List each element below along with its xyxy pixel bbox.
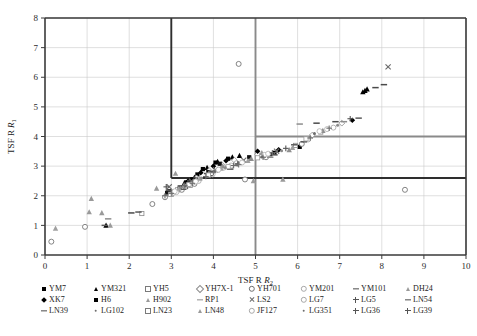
legend-item-label: XK7 bbox=[49, 295, 65, 304]
legend-item[interactable]: LG351 bbox=[298, 306, 350, 316]
legend-item[interactable]: DH24 bbox=[402, 284, 454, 294]
y-axis-title: TSF R R1 bbox=[6, 119, 17, 154]
legend-item-label: DH24 bbox=[413, 284, 433, 293]
data-point bbox=[179, 186, 182, 189]
legend-item[interactable]: LG39 bbox=[402, 306, 454, 316]
data-point bbox=[304, 137, 308, 141]
legend-row: YM7YM321YH5YH7X-1YH701YM201YM101DH24 bbox=[38, 283, 468, 294]
legend-marker-square-open-icon bbox=[142, 284, 153, 294]
data-point bbox=[49, 239, 54, 244]
y-axis-title-text: TSF R R1 bbox=[6, 119, 17, 154]
data-point bbox=[168, 192, 172, 196]
y-axis-ticks: 012345678 bbox=[34, 13, 46, 260]
legend-item[interactable]: LG102 bbox=[90, 306, 142, 316]
legend-marker-triangle-gray-icon bbox=[194, 306, 205, 316]
legend-item[interactable]: YH7X-1 bbox=[194, 284, 246, 294]
legend-item[interactable]: LG7 bbox=[298, 295, 350, 305]
legend-marker-square-open-icon bbox=[142, 306, 153, 316]
legend-item[interactable]: YH5 bbox=[142, 284, 194, 294]
legend-item[interactable]: JF127 bbox=[246, 306, 298, 316]
legend-item-label: YH5 bbox=[153, 284, 169, 293]
x-tick-label: 6 bbox=[295, 261, 300, 271]
chart-legend: YM7YM321YH5YH7X-1YH701YM201YM101DH24XK7H… bbox=[38, 283, 468, 331]
legend-item[interactable]: YM101 bbox=[350, 284, 402, 294]
y-tick-label: 6 bbox=[34, 72, 39, 82]
y-tick-label: 0 bbox=[34, 250, 39, 260]
legend-item-label: H902 bbox=[153, 295, 171, 304]
x-tick-label: 3 bbox=[169, 261, 174, 271]
legend-marker-x-mark-icon bbox=[246, 295, 257, 305]
legend-marker-diamond-filled-icon bbox=[38, 295, 49, 305]
legend-item-label: LN23 bbox=[153, 306, 172, 315]
legend-item-label: LG7 bbox=[309, 295, 324, 304]
x-tick-label: 0 bbox=[43, 261, 48, 271]
legend-item[interactable]: LS2 bbox=[246, 295, 298, 305]
legend-item[interactable]: LN23 bbox=[142, 306, 194, 316]
data-point bbox=[280, 149, 283, 152]
legend-item[interactable]: H6 bbox=[90, 295, 142, 305]
legend-marker-plus-icon bbox=[402, 306, 413, 316]
legend-marker-triangle-gray-icon bbox=[142, 295, 153, 305]
legend-item[interactable]: YM201 bbox=[298, 284, 350, 294]
x-tick-label: 10 bbox=[462, 261, 472, 271]
legend-marker-circle-light-icon bbox=[298, 284, 309, 294]
x-tick-label: 2 bbox=[127, 261, 132, 271]
data-point bbox=[218, 162, 222, 166]
legend-item-label: LG36 bbox=[361, 306, 380, 315]
legend-item[interactable]: LN48 bbox=[194, 306, 246, 316]
legend-item[interactable]: RP1 bbox=[194, 295, 246, 305]
data-point bbox=[226, 165, 230, 169]
legend-item-label: LN48 bbox=[205, 306, 224, 315]
y-tick-label: 5 bbox=[34, 102, 39, 112]
legend-item-label: JF127 bbox=[257, 306, 277, 315]
x-tick-label: 7 bbox=[337, 261, 342, 271]
data-point bbox=[150, 202, 155, 207]
legend-marker-circle-light-icon bbox=[298, 295, 309, 305]
legend-item[interactable]: YH701 bbox=[246, 284, 298, 294]
legend-marker-dash-icon bbox=[350, 284, 361, 294]
legend-marker-dash-icon bbox=[402, 295, 413, 305]
legend-marker-circle-open-icon bbox=[246, 284, 257, 294]
data-point bbox=[317, 129, 322, 134]
legend-item-label: LG39 bbox=[413, 306, 432, 315]
data-point bbox=[200, 176, 203, 179]
legend-item-label: LG102 bbox=[101, 306, 124, 315]
legend-item[interactable]: XK7 bbox=[38, 295, 90, 305]
legend-item-label: LG351 bbox=[309, 306, 332, 315]
legend-item[interactable]: YM7 bbox=[38, 284, 90, 294]
legend-item-label: LG5 bbox=[361, 295, 376, 304]
legend-item[interactable]: LG36 bbox=[350, 306, 402, 316]
legend-item-label: LN54 bbox=[413, 295, 432, 304]
legend-item[interactable]: H902 bbox=[142, 295, 194, 305]
legend-item[interactable]: LG5 bbox=[350, 295, 402, 305]
legend-marker-dot-small-icon bbox=[90, 306, 101, 316]
legend-marker-dash-icon bbox=[38, 306, 49, 316]
legend-item-label: YM321 bbox=[101, 284, 126, 293]
data-point bbox=[331, 125, 336, 130]
data-point bbox=[266, 151, 271, 156]
legend-marker-triangle-filled-icon bbox=[90, 284, 101, 294]
legend-item[interactable]: LN39 bbox=[38, 306, 90, 316]
x-tick-label: 1 bbox=[85, 261, 90, 271]
data-point bbox=[82, 224, 87, 229]
y-tick-label: 1 bbox=[34, 221, 39, 231]
legend-item[interactable]: YM321 bbox=[90, 284, 142, 294]
y-tick-label: 4 bbox=[34, 132, 39, 142]
x-tick-label: 4 bbox=[211, 261, 216, 271]
data-point bbox=[256, 156, 260, 160]
y-tick-label: 3 bbox=[34, 161, 39, 171]
legend-item[interactable]: LN54 bbox=[402, 295, 454, 305]
legend-item-label: RP1 bbox=[205, 295, 219, 304]
data-point bbox=[336, 124, 339, 127]
legend-marker-dot-small-icon bbox=[298, 306, 309, 316]
legend-marker-square-filled-icon bbox=[90, 295, 101, 305]
legend-item-label: YM101 bbox=[361, 284, 386, 293]
legend-item-label: YH701 bbox=[257, 284, 281, 293]
legend-item-label: LN39 bbox=[49, 306, 68, 315]
data-point bbox=[236, 61, 241, 66]
legend-marker-square-filled-icon bbox=[38, 284, 49, 294]
x-tick-label: 9 bbox=[422, 261, 427, 271]
legend-item-label: YH7X-1 bbox=[205, 284, 234, 293]
data-point bbox=[249, 158, 252, 161]
x-tick-label: 5 bbox=[253, 261, 258, 271]
